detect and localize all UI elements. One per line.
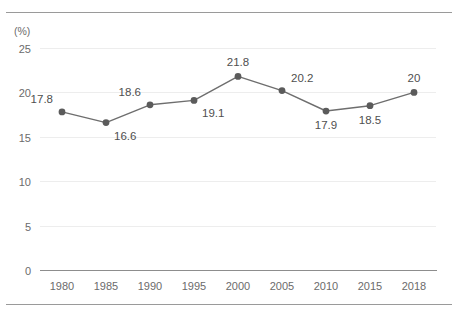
x-tick-labels: 198019851990199520002005201020152018 bbox=[50, 280, 426, 292]
y-tick-label: 10 bbox=[19, 176, 31, 188]
series-value-labels: 17.816.618.619.121.820.217.918.520 bbox=[31, 56, 421, 141]
y-tick-label: 0 bbox=[25, 265, 31, 277]
x-tick-label: 1980 bbox=[50, 280, 74, 292]
x-tick-label: 2000 bbox=[226, 280, 250, 292]
data-point-label: 16.6 bbox=[114, 130, 136, 142]
data-point bbox=[367, 102, 374, 109]
data-point bbox=[147, 101, 154, 108]
x-tick-label: 1990 bbox=[138, 280, 162, 292]
y-tick-labels: 0510152025 bbox=[19, 43, 31, 277]
data-point bbox=[59, 109, 66, 116]
y-tick-label: 5 bbox=[25, 221, 31, 233]
y-tick-label: 15 bbox=[19, 132, 31, 144]
data-point-label: 17.9 bbox=[315, 119, 337, 131]
footer-divider bbox=[6, 304, 452, 305]
data-point bbox=[323, 108, 330, 115]
data-point-label: 18.6 bbox=[119, 86, 141, 98]
data-point-label: 17.8 bbox=[31, 93, 53, 105]
line-chart-plot: (%) 0510152025 1980198519901995200020052… bbox=[0, 0, 458, 312]
x-tick-label: 2015 bbox=[358, 280, 382, 292]
x-tick-label: 2018 bbox=[402, 280, 426, 292]
x-tick-label: 1995 bbox=[182, 280, 206, 292]
data-point bbox=[191, 97, 198, 104]
data-point-label: 20 bbox=[408, 72, 421, 84]
data-point bbox=[235, 73, 242, 80]
data-point bbox=[103, 119, 110, 126]
y-tick-label: 20 bbox=[19, 87, 31, 99]
data-point-label: 21.8 bbox=[227, 56, 249, 68]
data-point bbox=[279, 87, 286, 94]
y-axis-unit-label: (%) bbox=[14, 25, 30, 37]
data-point-label: 18.5 bbox=[359, 114, 381, 126]
x-tick-label: 2005 bbox=[270, 280, 294, 292]
x-tick-label: 2010 bbox=[314, 280, 338, 292]
data-point-label: 19.1 bbox=[202, 107, 224, 119]
data-point bbox=[411, 89, 418, 96]
x-tick-label: 1985 bbox=[94, 280, 118, 292]
y-tick-label: 25 bbox=[19, 43, 31, 55]
data-point-label: 20.2 bbox=[291, 72, 313, 84]
chart-figure: (%) 0510152025 1980198519901995200020052… bbox=[0, 0, 458, 312]
